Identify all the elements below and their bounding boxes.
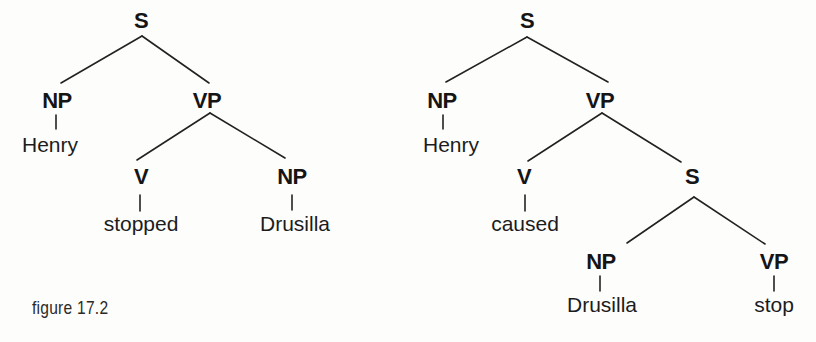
edge-s-inner-np xyxy=(627,197,694,243)
edge-vp-s xyxy=(602,113,681,162)
edge-vp-v xyxy=(137,113,210,160)
edge-s-np xyxy=(446,37,527,82)
word-henry: Henry xyxy=(22,134,78,155)
node-s: S xyxy=(520,10,534,32)
word-henry: Henry xyxy=(423,134,479,155)
word-drusilla: Drusilla xyxy=(567,294,637,315)
word-caused: caused xyxy=(491,213,559,234)
edge-vp-np xyxy=(210,113,285,158)
word-stopped: stopped xyxy=(104,213,179,234)
node-object-np: NP xyxy=(277,166,307,188)
node-vp: VP xyxy=(193,90,221,112)
edge-s-np xyxy=(61,36,142,83)
node-inner-np: NP xyxy=(586,251,616,273)
word-drusilla: Drusilla xyxy=(260,213,330,234)
node-inner-vp: VP xyxy=(760,251,788,273)
node-np: NP xyxy=(42,90,72,112)
left-tree-edges xyxy=(56,36,292,211)
node-np: NP xyxy=(427,90,457,112)
edge-s-inner-vp xyxy=(694,197,765,244)
edge-s-vp xyxy=(142,36,209,83)
node-inner-s: S xyxy=(685,166,699,188)
node-v: V xyxy=(517,166,531,188)
edge-vp-v xyxy=(528,113,602,161)
figure-canvas: S NP Henry VP V stopped NP Drusilla S NP… xyxy=(0,0,816,342)
node-v: V xyxy=(134,166,148,188)
figure-caption: figure 17.2 xyxy=(32,297,108,319)
node-vp: VP xyxy=(586,90,614,112)
word-stop: stop xyxy=(754,294,794,315)
edge-s-vp xyxy=(527,37,608,82)
node-s: S xyxy=(134,10,148,32)
